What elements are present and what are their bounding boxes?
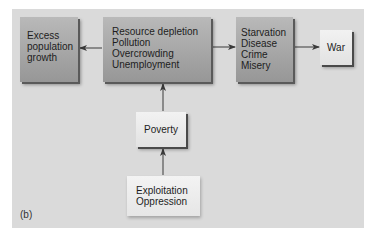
- node-resource-depletion: Resource depletion Pollution Overcrowdin…: [103, 17, 211, 82]
- node-text: Excess: [27, 30, 73, 41]
- node-text: Misery: [241, 60, 288, 71]
- node-text: Starvation: [241, 27, 288, 38]
- node-text: Exploitation: [136, 185, 195, 196]
- node-text: Poverty: [144, 124, 178, 135]
- node-text: Disease: [241, 38, 288, 49]
- node-excess-population-growth: Excess population growth: [20, 17, 78, 82]
- node-text: population: [27, 41, 73, 52]
- node-exploitation-oppression: Exploitation Oppression: [127, 176, 200, 216]
- node-war: War: [320, 30, 352, 65]
- node-text: Crime: [241, 49, 288, 60]
- node-poverty: Poverty: [136, 112, 186, 147]
- node-text: Pollution: [112, 37, 206, 48]
- node-text: growth: [27, 52, 73, 63]
- node-text: Resource depletion: [112, 26, 206, 37]
- node-text: Overcrowding: [112, 48, 206, 59]
- node-text: Unemployment: [112, 59, 206, 70]
- node-text: Oppression: [136, 196, 195, 207]
- node-text: War: [327, 42, 345, 53]
- node-starvation: Starvation Disease Crime Misery: [236, 17, 293, 82]
- panel-label: (b): [20, 209, 32, 220]
